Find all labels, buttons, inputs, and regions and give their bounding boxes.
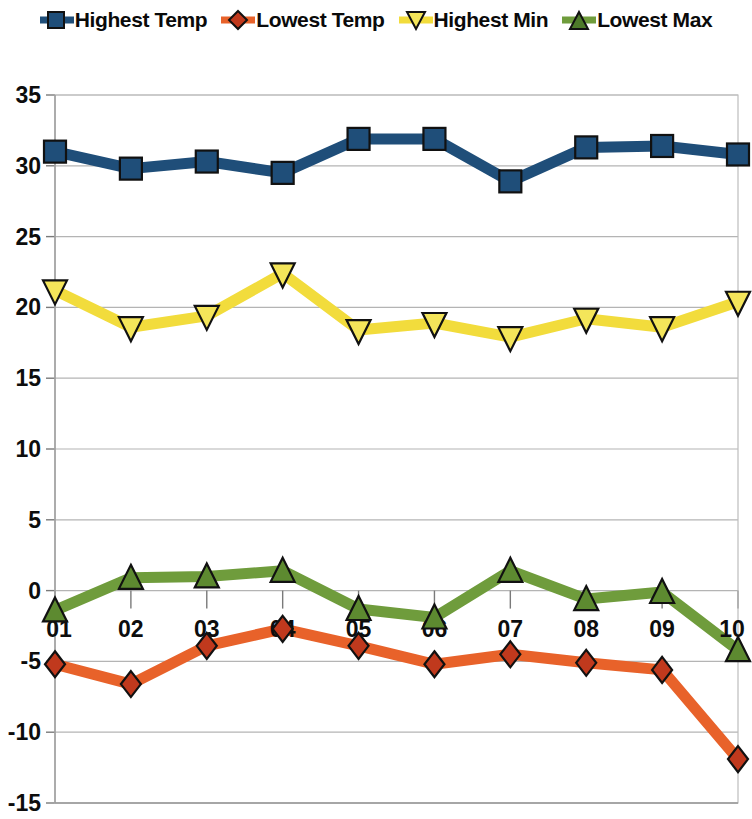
legend-label-lowest-temp: Lowest Temp bbox=[256, 9, 384, 31]
y-axis-tick-label: 25 bbox=[15, 224, 41, 250]
chart-svg: 35302520151050-5-10-15 01020304050607080… bbox=[0, 40, 752, 819]
x-axis-labels: 01020304050607080910 bbox=[46, 616, 745, 642]
y-axis-tick-label: -10 bbox=[8, 719, 41, 745]
series-line-lowest-max bbox=[55, 571, 738, 650]
data-point-marker bbox=[575, 136, 597, 158]
plot-area: 35302520151050-5-10-15 01020304050607080… bbox=[0, 40, 752, 819]
y-axis-tick-label: 5 bbox=[28, 507, 41, 533]
y-axis-tick-label: 20 bbox=[15, 294, 41, 320]
data-point-marker bbox=[576, 650, 596, 676]
x-axis-tick-label: 08 bbox=[573, 616, 599, 642]
y-axis-tick-label: 35 bbox=[15, 82, 41, 108]
data-point-marker bbox=[45, 651, 65, 677]
legend-entry-lowest-max[interactable]: Lowest Max bbox=[562, 9, 712, 31]
y-axis-tick-label: 10 bbox=[15, 436, 41, 462]
y-axis-tick-label: 0 bbox=[28, 578, 41, 604]
data-point-marker bbox=[272, 162, 294, 184]
data-point-marker bbox=[348, 128, 370, 150]
x-axis-tick-label: 09 bbox=[649, 616, 675, 642]
y-axis-tick-label: 30 bbox=[15, 153, 41, 179]
y-axis-tick-label: -15 bbox=[8, 790, 41, 816]
legend-label-lowest-max: Lowest Max bbox=[597, 9, 712, 31]
series-line-highest-temp bbox=[55, 139, 738, 181]
data-point-marker bbox=[120, 158, 142, 180]
gridlines-group bbox=[55, 95, 738, 803]
x-axis-tick-label: 07 bbox=[498, 616, 524, 642]
data-point-marker bbox=[423, 128, 445, 150]
data-point-marker bbox=[44, 141, 66, 163]
series-line-highest-min bbox=[55, 273, 738, 337]
series-line-lowest-temp bbox=[55, 629, 738, 759]
x-axis-tick-label: 10 bbox=[719, 616, 745, 642]
data-point-marker bbox=[727, 143, 749, 165]
data-point-marker bbox=[424, 651, 444, 677]
y-axis-tick-label: 15 bbox=[15, 365, 41, 391]
legend-entry-lowest-temp[interactable]: Lowest Temp bbox=[221, 9, 384, 31]
square-marker-icon bbox=[40, 9, 74, 31]
legend-label-highest-temp: Highest Temp bbox=[75, 9, 208, 31]
y-axis-tick-label: -5 bbox=[21, 648, 42, 674]
chart-container: Highest Temp Lowest Temp Highest Min Low… bbox=[0, 0, 752, 819]
triangle-up-marker-icon bbox=[562, 9, 596, 31]
data-point-marker bbox=[651, 135, 673, 157]
legend-entry-highest-temp[interactable]: Highest Temp bbox=[40, 9, 208, 31]
data-point-marker bbox=[196, 151, 218, 173]
data-point-marker bbox=[499, 170, 521, 192]
data-point-marker bbox=[500, 641, 520, 667]
diamond-marker-icon bbox=[221, 9, 255, 31]
legend-entry-highest-min[interactable]: Highest Min bbox=[399, 9, 549, 31]
legend-label-highest-min: Highest Min bbox=[434, 9, 549, 31]
chart-legend: Highest Temp Lowest Temp Highest Min Low… bbox=[0, 0, 752, 40]
y-axis-labels: 35302520151050-5-10-15 bbox=[8, 82, 41, 816]
x-axis-tick-label: 02 bbox=[118, 616, 144, 642]
triangle-down-marker-icon bbox=[399, 9, 433, 31]
